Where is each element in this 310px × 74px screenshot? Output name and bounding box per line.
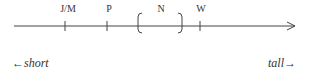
left-end-label: ←short xyxy=(12,56,49,71)
marker-label-jm: J/M xyxy=(60,3,76,14)
right-end-label: tall→ xyxy=(268,56,296,71)
marker-label-n: N xyxy=(157,3,164,14)
bracket-right-icon xyxy=(178,13,182,33)
marker-label-w: W xyxy=(196,3,205,14)
bracket-left-icon xyxy=(138,13,142,33)
marker-label-p: P xyxy=(106,3,112,14)
